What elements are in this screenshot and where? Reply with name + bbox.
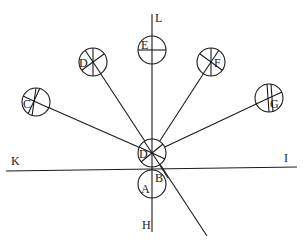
label-k: K (11, 154, 20, 168)
label-g: G (270, 97, 279, 111)
label-b: B (155, 171, 163, 185)
circle-center-d: D (138, 139, 166, 167)
ray-to-c (36, 102, 152, 153)
label-d-upper: D (79, 56, 88, 70)
label-d-center: D (139, 147, 148, 161)
label-a: A (141, 182, 150, 196)
label-e: E (141, 38, 148, 52)
circle-c: C (22, 88, 50, 116)
label-f: F (214, 56, 221, 70)
label-i: I (284, 151, 288, 165)
circle-f: F (197, 48, 225, 76)
label-l: L (155, 11, 162, 25)
circle-d-upper-left: D (79, 48, 107, 76)
circle-e: E (138, 36, 166, 64)
diagram-canvas: A B D E D C F (0, 0, 303, 245)
label-h: H (142, 218, 151, 232)
label-c: C (23, 97, 31, 111)
circle-g: G (255, 84, 283, 112)
